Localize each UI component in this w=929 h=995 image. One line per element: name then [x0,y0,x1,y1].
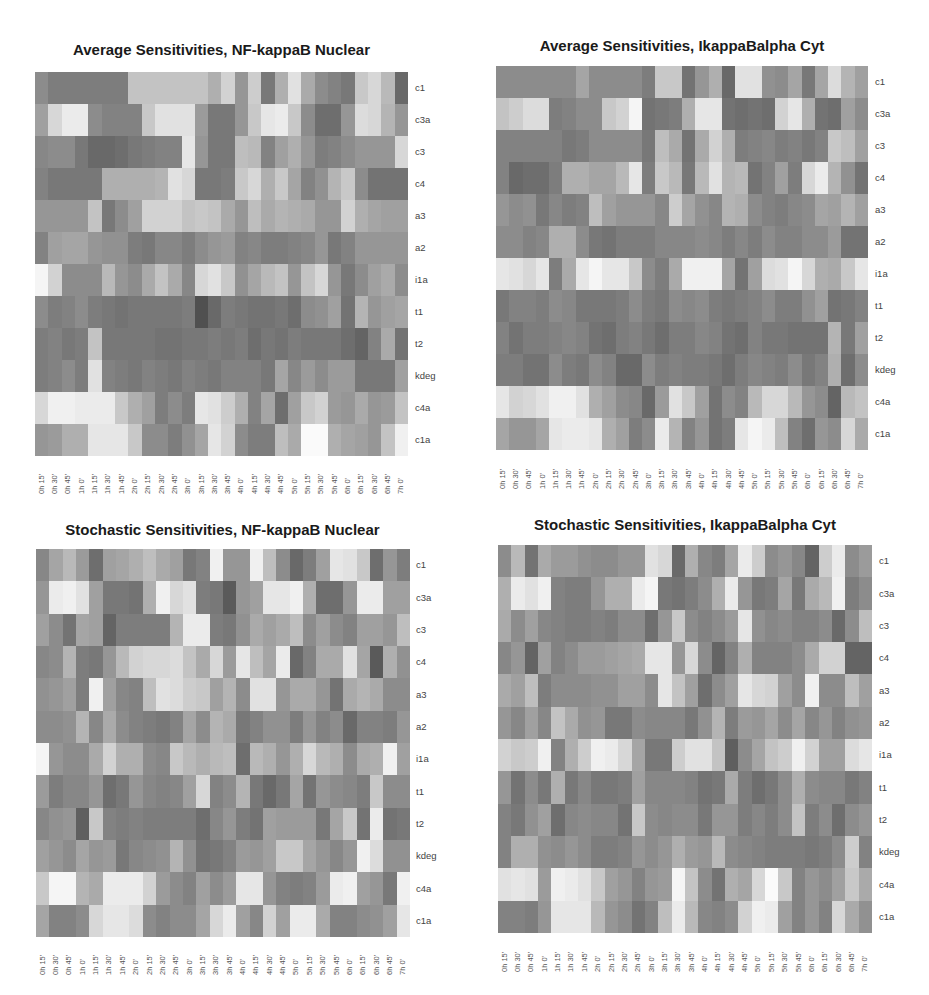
heatmap-cell [819,771,832,803]
heatmap-cell [565,868,578,900]
heatmap-cell [618,577,631,609]
heatmap-cell [819,707,832,739]
heatmap-cell [538,577,551,609]
heatmap-cell [832,577,845,609]
heatmap-cell [698,610,711,642]
heatmap-cell [658,868,671,900]
heatmap-cell [658,804,671,836]
heatmap-cell [565,642,578,674]
heatmap-cell [859,901,872,933]
heatmap-cell [738,610,751,642]
column-label: 6h 15' [820,952,829,972]
heatmap-cell [805,674,818,706]
heatmap-cell [551,642,564,674]
heatmap-cell [859,674,872,706]
heatmap-cell [578,804,591,836]
heatmap-cell [551,771,564,803]
heatmap-cell [632,739,645,771]
heatmap-cell [578,901,591,933]
heatmap-cell [792,610,805,642]
heatmap-cell [832,868,845,900]
column-label: 7h 0' [860,956,869,972]
panel-title: Stochastic Sensitivities, IkappaBalpha C… [498,516,872,533]
heatmap-cell [658,901,671,933]
heatmap-cell [618,771,631,803]
heatmap-cell [565,707,578,739]
heatmap-cell [765,771,778,803]
heatmap-cell [538,642,551,674]
heatmap-cell [578,577,591,609]
heatmap-grid [498,545,872,933]
heatmap-cell [511,771,524,803]
heatmap-cell [658,771,671,803]
heatmap-cell [632,642,645,674]
heatmap-cell [725,674,738,706]
heatmap-cell [605,771,618,803]
heatmap-cell [792,868,805,900]
heatmap-cell [565,739,578,771]
heatmap-cell [551,674,564,706]
heatmap-cell [845,836,858,868]
heatmap-cell [605,577,618,609]
heatmap-cell [565,610,578,642]
heatmap-cell [645,545,658,577]
heatmap-cell [712,739,725,771]
heatmap-cell [832,545,845,577]
heatmap-cell [765,642,778,674]
heatmap-cell [712,707,725,739]
heatmap-cell [698,804,711,836]
heatmap-cell [632,804,645,836]
heatmap-cell [765,868,778,900]
heatmap-cell [819,901,832,933]
heatmap-cell [618,674,631,706]
heatmap-cell [672,739,685,771]
heatmap-cell [525,642,538,674]
heatmap-cell [525,707,538,739]
heatmap-cell [511,642,524,674]
heatmap-cell [578,610,591,642]
column-label: 5h 15' [767,952,776,972]
heatmap-cell [618,901,631,933]
heatmap-cell [752,674,765,706]
heatmap-cell [551,739,564,771]
heatmap-cell [805,610,818,642]
heatmap-cell [698,771,711,803]
heatmap-cell [725,642,738,674]
column-label: 5h 0' [753,956,762,972]
heatmap-cell [845,707,858,739]
heatmap-cell [525,674,538,706]
heatmap-cell [792,804,805,836]
heatmap-cell [752,836,765,868]
heatmap-cell [685,739,698,771]
heatmap-cell [738,739,751,771]
heatmap-cell [658,642,671,674]
heatmap-cell [525,804,538,836]
heatmap-cell [605,901,618,933]
heatmap-cell [752,707,765,739]
heatmap-cell [618,836,631,868]
heatmap-cell [565,804,578,836]
row-label: c3a [879,588,894,599]
heatmap-cell [725,804,738,836]
heatmap-cell [845,804,858,836]
heatmap-cell [819,674,832,706]
heatmap-cell [765,804,778,836]
heatmap-cell [538,739,551,771]
heatmap-cell [685,771,698,803]
heatmap-cell [685,545,698,577]
heatmap-cell [525,739,538,771]
heatmap-cell [698,739,711,771]
heatmap-cell [578,739,591,771]
heatmap-cell [672,836,685,868]
heatmap-cell [658,739,671,771]
heatmap-cell [645,577,658,609]
heatmap-cell [538,610,551,642]
heatmap-cell [845,771,858,803]
heatmap-cell [685,642,698,674]
heatmap-cell [551,545,564,577]
heatmap-cell [752,545,765,577]
heatmap-cell [672,674,685,706]
heatmap-cell [538,674,551,706]
heatmap-cell [658,707,671,739]
heatmap-cell [618,610,631,642]
